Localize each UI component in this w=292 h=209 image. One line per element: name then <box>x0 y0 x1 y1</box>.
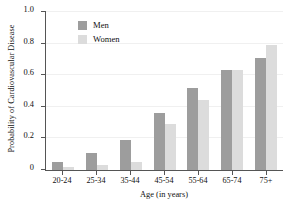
y-axis-tick-label: 0.2 <box>24 131 34 140</box>
bar-women-25-34 <box>97 165 108 170</box>
bar-women-75+ <box>266 45 277 170</box>
y-axis-title: Probability of Cardiovascular Disease <box>7 4 16 174</box>
x-axis-tick <box>164 171 165 175</box>
y-axis-tick-label: 0.4 <box>24 100 34 109</box>
bar-men-25-34 <box>86 153 97 170</box>
x-axis-tick-label: 45-54 <box>147 176 181 185</box>
legend-label-women: Women <box>93 34 120 44</box>
x-axis-tick-label: 35-44 <box>113 176 147 185</box>
bar-women-55-64 <box>198 100 209 170</box>
legend-swatch-women <box>78 35 87 44</box>
x-axis-tick-label: 75+ <box>249 176 283 185</box>
x-axis-tick <box>96 171 97 175</box>
y-axis-tick-label: 1.0 <box>24 5 34 14</box>
bar-women-20-24 <box>63 167 74 170</box>
bar-women-65-74 <box>232 70 243 170</box>
x-axis-labels: 20-2425-3435-4445-5455-6465-7475+ <box>45 176 283 185</box>
bar-men-75+ <box>255 58 266 170</box>
bar-men-45-54 <box>154 113 165 170</box>
legend-swatch-men <box>78 21 87 30</box>
x-axis-tick <box>62 171 63 175</box>
y-axis-tick-label: 0.8 <box>24 37 34 46</box>
bar-men-55-64 <box>187 88 198 170</box>
x-axis-tick-label: 55-64 <box>181 176 215 185</box>
bar-women-35-44 <box>131 162 142 170</box>
bar-group <box>181 12 215 170</box>
x-axis-tick <box>232 171 233 175</box>
bar-men-65-74 <box>221 70 232 170</box>
x-axis-tick <box>198 171 199 175</box>
bar-women-45-54 <box>165 124 176 170</box>
bar-group <box>249 12 283 170</box>
bar-group <box>46 12 80 170</box>
bar-men-20-24 <box>52 162 63 170</box>
x-axis-tick-label: 25-34 <box>79 176 113 185</box>
x-axis-tick <box>130 171 131 175</box>
x-axis-title: Age (in years) <box>45 190 283 199</box>
cardiovascular-disease-bar-chart: Probability of Cardiovascular Disease 00… <box>0 0 292 209</box>
y-axis-tick-label: 0 <box>30 163 34 172</box>
legend-entry-women: Women <box>78 34 120 44</box>
x-axis-tick <box>266 171 267 175</box>
x-axis-tick-label: 20-24 <box>45 176 79 185</box>
y-axis-tick-label: 0.6 <box>24 68 34 77</box>
legend-entry-men: Men <box>78 20 120 30</box>
bar-men-35-44 <box>120 140 131 170</box>
x-axis-tick-label: 65-74 <box>215 176 249 185</box>
bar-group <box>148 12 182 170</box>
legend: MenWomen <box>78 20 120 48</box>
bar-group <box>215 12 249 170</box>
legend-label-men: Men <box>93 20 109 30</box>
